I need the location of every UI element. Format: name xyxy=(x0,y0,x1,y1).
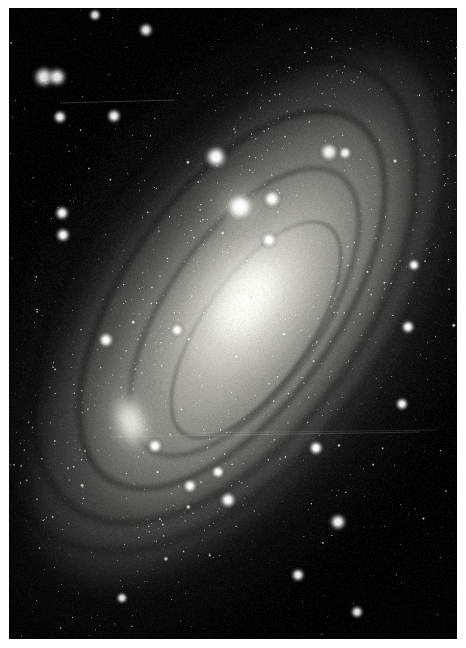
astrophoto-plate xyxy=(9,8,457,639)
photo-frame xyxy=(0,0,466,648)
emulsion-grain xyxy=(9,8,457,639)
